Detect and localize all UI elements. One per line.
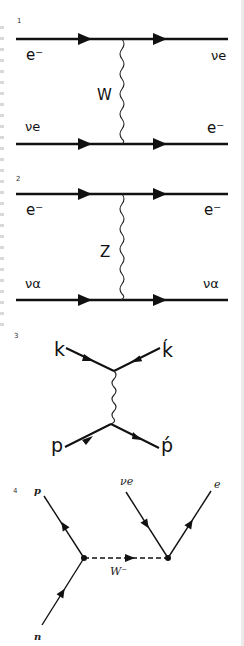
diagram-number: 3	[14, 332, 18, 340]
label-in-bottom: p	[51, 434, 63, 456]
label-electron: e	[214, 478, 221, 491]
label-boson: W	[97, 86, 112, 104]
label-out-top: e⁻	[204, 201, 221, 219]
arrow-icon	[78, 188, 92, 200]
vertex-dot	[81, 555, 87, 561]
boson-propagator	[120, 39, 124, 144]
diagram-3: 3 k ḱ p ṕ	[14, 332, 173, 456]
label-boson: W⁻	[110, 565, 127, 578]
boson-propagator	[111, 371, 116, 424]
arrow-icon	[153, 138, 167, 150]
label-in-bottom: να	[25, 276, 41, 291]
label-boson: Z	[100, 243, 110, 261]
label-neutrino: νe	[120, 475, 134, 488]
arrow-icon	[78, 294, 92, 306]
label-out-bottom: ṕ	[161, 434, 173, 456]
label-incoming-neutron: n	[34, 631, 41, 642]
page: 1 e⁻ νe W νe e⁻ 2	[0, 0, 244, 646]
feynman-diagrams-canvas: 1 e⁻ νe W νe e⁻ 2	[0, 0, 244, 646]
arrow-icon	[184, 518, 196, 530]
boson-propagator	[120, 194, 124, 300]
label-out-bottom: να	[203, 276, 219, 291]
label-outgoing-proton: p	[34, 485, 41, 496]
arrow-icon	[82, 354, 94, 361]
label-in-bottom: νe	[25, 119, 40, 134]
arrow-icon	[125, 554, 135, 562]
vertex-dot	[165, 555, 171, 561]
arrow-icon	[56, 587, 68, 599]
label-in-top: e⁻	[26, 201, 43, 219]
arrow-icon	[153, 33, 167, 45]
label-out-top: ḱ	[162, 339, 173, 361]
diagram-1: 1 e⁻ νe W νe e⁻	[16, 17, 228, 150]
label-in-top: e⁻	[26, 46, 43, 64]
label-out-top: νe	[211, 48, 226, 63]
arrow-icon	[153, 188, 167, 200]
diagram-4: 4 p n W⁻ νe e	[13, 475, 221, 642]
diagram-2: 2 e⁻ e⁻ Z να να	[16, 175, 228, 306]
diagram-number: 1	[17, 17, 21, 25]
label-in-top: k	[54, 338, 65, 360]
arrow-icon	[78, 138, 92, 150]
arrow-icon	[78, 33, 92, 45]
diagram-number: 4	[13, 487, 18, 495]
label-out-bottom: e⁻	[207, 119, 224, 137]
arrow-icon	[153, 294, 167, 306]
diagram-number: 2	[16, 175, 20, 183]
arrow-icon	[132, 432, 142, 440]
arrow-icon	[140, 518, 152, 530]
